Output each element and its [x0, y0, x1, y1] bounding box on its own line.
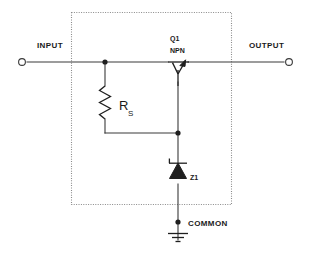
- q1-emitter-arrowhead: [180, 60, 186, 67]
- rs-zigzag: [100, 86, 111, 119]
- schematic-diagram: INPUT OUTPUT Q1 NPN R S Z1 COMMON: [0, 0, 311, 257]
- q1-ref-label: Q1: [170, 35, 179, 43]
- common-label: COMMON: [188, 219, 228, 228]
- junction-dot-mid-node: [175, 130, 180, 135]
- q1-collector-leg: [173, 63, 179, 74]
- z1-anode-triangle: [170, 163, 187, 179]
- q1-type-label: NPN: [170, 47, 185, 54]
- rs-ref-sublabel: S: [128, 109, 133, 118]
- output-terminal-circle[interactable]: [286, 59, 293, 66]
- junction-dot-input-node: [102, 59, 107, 64]
- schematic-canvas: INPUT OUTPUT Q1 NPN R S Z1 COMMON: [0, 0, 311, 257]
- output-label: OUTPUT: [249, 41, 284, 50]
- rs-ref-label: R: [119, 98, 128, 113]
- resistor-rs-symbol: [100, 62, 179, 133]
- z1-ref-label: Z1: [190, 174, 198, 181]
- input-label: INPUT: [37, 41, 63, 50]
- enclosure-boundary: [72, 13, 232, 205]
- input-terminal-circle[interactable]: [19, 59, 26, 66]
- junction-dot-common-node: [175, 219, 180, 224]
